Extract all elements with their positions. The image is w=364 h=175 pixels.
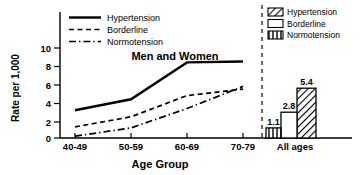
line-legend: Hypertension Borderline Normotension [69, 13, 163, 47]
bar-borderline [281, 112, 297, 138]
series-line-hypertension [75, 62, 243, 111]
legend-swatch-borderline-bar [268, 20, 283, 28]
bar-normotension [266, 128, 281, 138]
bar-group-label-all-ages: All ages [277, 141, 313, 152]
y-tick-label-0: 0 [46, 133, 51, 144]
x-tick-label-70-79: 70-79 [231, 141, 255, 152]
legend-label-normotension-line: Normotension [107, 37, 163, 47]
figure-container: 0 2 4 6 8 10 Rate per 1,000 40-49 50-59 … [0, 0, 364, 175]
bar-value-borderline: 2.8 [283, 101, 296, 111]
y-tick-label-10: 10 [40, 43, 51, 54]
legend-label-normotension-bar: Normotension [287, 30, 340, 40]
legend-label-hypertension-bar: Hypertension [287, 7, 337, 17]
bar-hypertension [297, 88, 316, 138]
series-lines [75, 62, 243, 137]
bar-value-normotension: 1.1 [267, 117, 280, 127]
legend-label-borderline-bar: Borderline [287, 19, 326, 29]
bar-group-all-ages: 5.4 2.8 1.1 All ages [266, 77, 316, 153]
y-tick-label-8: 8 [46, 61, 51, 72]
y-tick-label-4: 4 [46, 98, 52, 109]
series-line-borderline [75, 89, 243, 127]
y-tick-label-2: 2 [46, 117, 51, 128]
y-axis-label: Rate per 1,000 [10, 54, 21, 122]
legend-label-hypertension-line: Hypertension [107, 13, 160, 23]
x-axis-label: Age Group [132, 158, 189, 170]
y-tick-label-6: 6 [46, 80, 51, 91]
x-tick-label-50-59: 50-59 [119, 141, 143, 152]
chart-canvas: 0 2 4 6 8 10 Rate per 1,000 40-49 50-59 … [0, 0, 364, 175]
series-line-normotension [75, 86, 243, 136]
x-tick-label-40-49: 40-49 [63, 141, 87, 152]
legend-label-borderline-line: Borderline [107, 25, 148, 35]
legend-swatch-hypertension-bar [268, 8, 283, 16]
y-axis: 0 2 4 6 8 10 Rate per 1,000 [10, 12, 60, 144]
bar-value-hypertension: 5.4 [300, 77, 313, 87]
legend-swatch-normotension-bar [268, 31, 283, 39]
chart-title: Men and Women [131, 50, 218, 62]
bar-legend: Hypertension Borderline Normotension [268, 7, 340, 40]
x-tick-label-60-69: 60-69 [175, 141, 199, 152]
